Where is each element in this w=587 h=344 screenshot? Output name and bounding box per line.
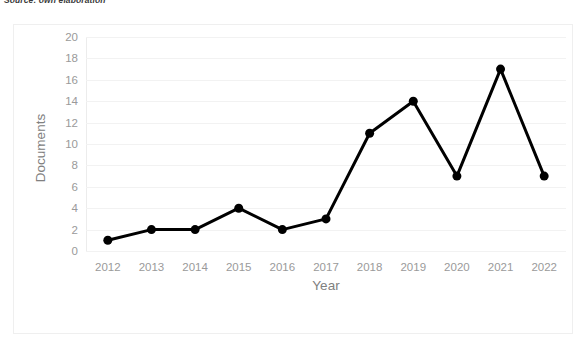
series-markers <box>103 65 548 245</box>
y-tick-label: 20 <box>65 31 78 43</box>
y-tick-label: 14 <box>65 95 78 107</box>
data-point <box>278 225 287 234</box>
line-series <box>86 37 566 251</box>
x-tick-label: 2019 <box>400 261 426 273</box>
y-tick-label: 18 <box>65 52 78 64</box>
chart-frame: Documents 02468101214161820 201220132014… <box>13 24 573 334</box>
data-point <box>191 225 200 234</box>
x-tick-label: 2013 <box>139 261 165 273</box>
y-axis-title-container: Documents <box>35 43 57 253</box>
x-axis-title: Year <box>86 278 566 293</box>
y-tick-label: 4 <box>72 202 78 214</box>
x-tick-label: 2020 <box>444 261 470 273</box>
y-tick-label: 16 <box>65 74 78 86</box>
x-tick-label: 2021 <box>488 261 514 273</box>
y-tick-label: 12 <box>65 117 78 129</box>
data-point <box>409 97 418 106</box>
data-point <box>496 65 505 74</box>
data-point <box>234 204 243 213</box>
x-tick-label: 2015 <box>226 261 252 273</box>
gridline <box>86 251 566 252</box>
x-tick-label: 2017 <box>313 261 339 273</box>
plot-area: 02468101214161820 2012201320142015201620… <box>86 37 566 251</box>
x-tick-label: 2022 <box>531 261 557 273</box>
data-point <box>147 225 156 234</box>
y-tick-label: 6 <box>72 181 78 193</box>
data-point <box>452 172 461 181</box>
data-point <box>322 214 331 223</box>
y-tick-label: 8 <box>72 159 78 171</box>
x-tick-label: 2016 <box>270 261 296 273</box>
data-point <box>365 129 374 138</box>
data-point <box>103 236 112 245</box>
data-point <box>540 172 549 181</box>
x-tick-label: 2018 <box>357 261 383 273</box>
y-tick-label: 2 <box>72 224 78 236</box>
y-axis-title: Documents <box>30 43 52 253</box>
y-tick-label: 0 <box>72 245 78 257</box>
y-tick-label: 10 <box>65 138 78 150</box>
source-caption: Source: own elaboration <box>4 0 105 5</box>
x-tick-label: 2012 <box>95 261 121 273</box>
x-tick-label: 2014 <box>182 261 208 273</box>
